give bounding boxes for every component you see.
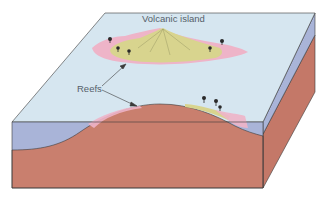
reefs-label: Reefs bbox=[77, 84, 102, 94]
reef-block-diagram bbox=[0, 0, 327, 199]
volcanic-island-label: Volcanic island bbox=[142, 14, 205, 24]
